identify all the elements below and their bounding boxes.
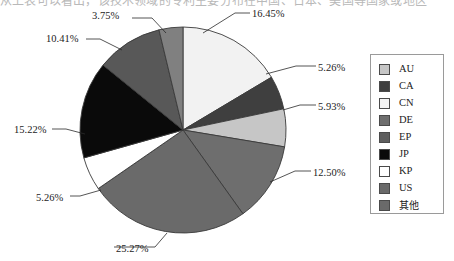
pie-percentage-label: 25.27%: [116, 243, 148, 254]
pie-slices-group: [80, 27, 286, 233]
legend-item[interactable]: CA: [379, 78, 414, 95]
leader-line: [266, 66, 316, 74]
leader-line: [203, 13, 250, 33]
legend-item-label: 其他: [399, 201, 419, 211]
pie-percentage-label: 12.50%: [313, 167, 345, 178]
legend-item[interactable]: 其他: [379, 197, 419, 214]
legend-item-label: JP: [399, 149, 409, 160]
legend-item-label: AU: [399, 64, 414, 75]
legend-item[interactable]: EP: [379, 129, 411, 146]
chart-page: 从上表可以看出，该技术领域的专利主要分布在中国、日本、美国等国家或地区 16.4…: [0, 0, 454, 261]
legend-item[interactable]: DE: [379, 112, 413, 129]
legend-color-swatch: [379, 64, 390, 75]
pie-chart-area: 16.45%5.26%5.93%12.50%25.27%5.26%15.22%1…: [0, 0, 360, 261]
legend-color-swatch: [379, 132, 390, 143]
legend-color-swatch: [379, 115, 390, 126]
legend-item-label: CN: [399, 98, 414, 109]
legend-item-label: EP: [399, 132, 411, 143]
legend-item[interactable]: CN: [379, 95, 414, 112]
legend-color-swatch: [379, 149, 390, 160]
legend-item-label: DE: [399, 115, 413, 126]
pie-percentage-label: 16.45%: [252, 8, 284, 19]
legend-color-swatch: [379, 183, 390, 194]
legend-item[interactable]: JP: [379, 146, 409, 163]
legend-color-swatch: [379, 166, 390, 177]
legend-item-label: US: [399, 183, 412, 194]
legend-item[interactable]: AU: [379, 61, 414, 78]
legend-item-label: KP: [399, 166, 412, 177]
leader-line: [86, 39, 122, 50]
pie-percentage-label: 15.22%: [14, 124, 46, 135]
legend-item[interactable]: US: [379, 180, 412, 197]
pie-percentage-label: 5.26%: [36, 192, 63, 203]
pie-percentage-label: 5.26%: [318, 62, 345, 73]
leader-line: [70, 190, 101, 196]
legend-color-swatch: [379, 98, 390, 109]
legend-box: AUCACNDEEPJPKPUS其他: [370, 54, 444, 214]
pie-percentage-label: 10.41%: [46, 33, 78, 44]
legend-color-swatch: [379, 200, 390, 211]
pie-percentage-label: 5.93%: [318, 101, 345, 112]
legend-item[interactable]: KP: [379, 163, 412, 180]
leader-line: [283, 105, 316, 110]
legend-item-label: CA: [399, 81, 414, 92]
legend-color-swatch: [379, 81, 390, 92]
pie-percentage-label: 3.75%: [92, 10, 119, 21]
